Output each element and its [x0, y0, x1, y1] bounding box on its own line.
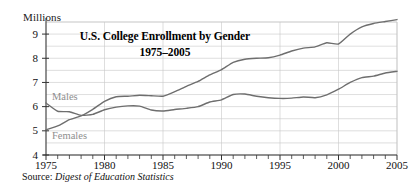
series-label-females: Females — [52, 131, 87, 142]
series-label-males: Males — [52, 92, 78, 103]
x-tick-label: 1985 — [143, 160, 183, 171]
source-value: Digest of Education Statistics — [55, 171, 174, 182]
x-tick-label: 2000 — [319, 160, 359, 171]
chart-title: U.S. College Enrollment by Gender 1975–2… — [50, 29, 280, 61]
x-tick-label: 1980 — [85, 160, 125, 171]
y-tick-label: 6 — [24, 101, 38, 112]
y-tick-label: 9 — [24, 29, 38, 40]
y-tick-label: 7 — [24, 77, 38, 88]
college-enrollment-chart: Millions 456789 197519801985199019952000… — [0, 0, 420, 187]
x-tick-label: 2005 — [377, 160, 417, 171]
y-tick-label: 5 — [24, 125, 38, 136]
chart-title-line1: U.S. College Enrollment by Gender — [80, 30, 250, 42]
y-tick-label: 8 — [24, 53, 38, 64]
source-prefix: Source: — [22, 171, 53, 182]
x-tick-label: 1990 — [202, 160, 242, 171]
x-tick-label: 1995 — [260, 160, 300, 171]
source-note: Source: Digest of Education Statistics — [22, 171, 174, 182]
x-tick-label: 1975 — [26, 160, 66, 171]
chart-title-line2: 1975–2005 — [50, 45, 280, 61]
